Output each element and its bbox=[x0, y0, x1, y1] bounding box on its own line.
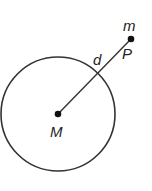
gravitation-diagram: M P m d bbox=[0, 0, 152, 191]
center-point-M bbox=[55, 111, 62, 118]
label-M: M bbox=[50, 123, 63, 140]
label-m: m bbox=[123, 17, 136, 34]
label-d: d bbox=[93, 51, 102, 68]
point-P bbox=[128, 36, 135, 43]
label-P: P bbox=[122, 45, 132, 62]
